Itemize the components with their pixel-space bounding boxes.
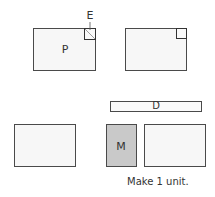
bar-d-label: D bbox=[146, 101, 166, 111]
panel-m-label: M bbox=[111, 141, 131, 152]
corner-piece-attached bbox=[176, 28, 187, 39]
corner-e-diagonal bbox=[85, 29, 95, 39]
panel-folded-left bbox=[14, 124, 76, 167]
caption: Make 1 unit. bbox=[127, 176, 189, 187]
panel-folded-right bbox=[144, 124, 206, 167]
